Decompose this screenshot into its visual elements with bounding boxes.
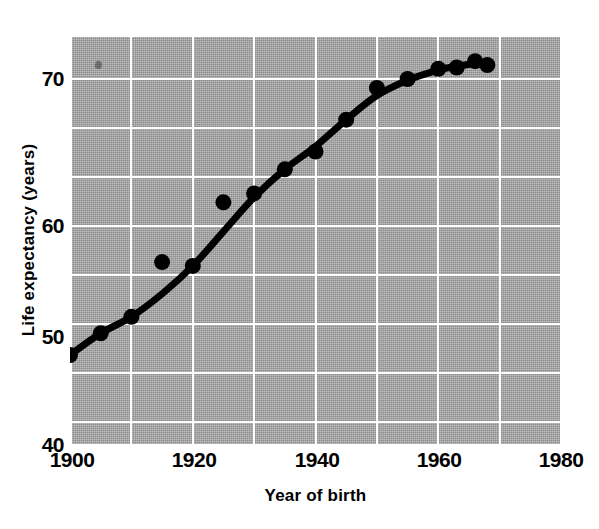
- x-tick-label: 1940: [272, 449, 362, 470]
- x-tick-label: 1920: [149, 449, 239, 470]
- data-series: [70, 37, 561, 444]
- data-point: [449, 60, 465, 76]
- data-point: [246, 185, 262, 201]
- data-point: [123, 309, 139, 325]
- data-points: [70, 53, 495, 363]
- x-tick-label: 1900: [27, 449, 117, 470]
- life-expectancy-chart: 70 60 50 40 1900 1920 1940 1960 1980 Yea…: [0, 0, 599, 529]
- x-axis-title: Year of birth: [70, 486, 561, 506]
- x-tick-label: 1960: [394, 449, 484, 470]
- data-point: [369, 80, 385, 96]
- data-point: [93, 325, 109, 341]
- data-point: [154, 254, 170, 270]
- data-point: [215, 194, 231, 210]
- data-point: [338, 112, 354, 128]
- data-point: [308, 144, 324, 160]
- data-point: [479, 57, 495, 73]
- data-point: [400, 71, 416, 87]
- data-point: [185, 258, 201, 274]
- x-axis-ticks: 1900 1920 1940 1960 1980: [0, 449, 599, 477]
- x-tick-label: 1980: [516, 449, 599, 470]
- plot-area: [70, 37, 561, 444]
- y-axis-title: Life expectancy (years): [19, 90, 39, 390]
- data-point: [277, 161, 293, 177]
- y-tick-label: 70: [8, 68, 64, 89]
- data-point: [430, 61, 446, 77]
